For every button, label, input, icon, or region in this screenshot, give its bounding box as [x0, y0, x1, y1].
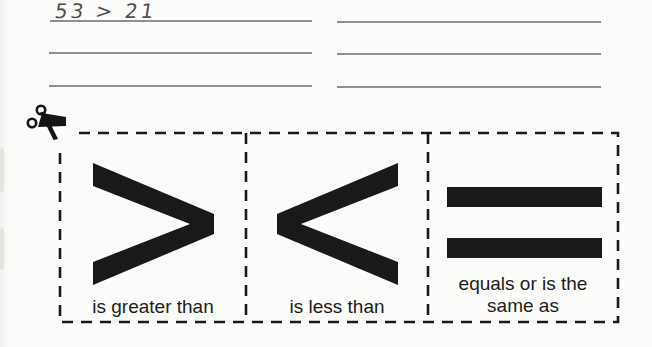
- equals-symbol: [447, 187, 602, 258]
- card-label-less-than: is less than: [246, 296, 428, 318]
- greater-than-symbol: [93, 163, 214, 285]
- less-than-symbol: [277, 163, 398, 285]
- card-label-greater-than: is greater than: [60, 296, 246, 318]
- card-label-equals: equals or is the same as: [428, 273, 618, 317]
- worksheet-page: 53 > 21 is greater than is less than: [0, 0, 652, 347]
